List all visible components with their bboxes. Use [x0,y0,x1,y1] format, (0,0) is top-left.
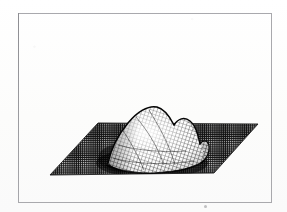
scan-artifact-speck [204,205,207,208]
surface-mesh-plot [18,13,272,203]
surface-plot-stage [18,13,272,203]
figure-page [0,0,287,212]
